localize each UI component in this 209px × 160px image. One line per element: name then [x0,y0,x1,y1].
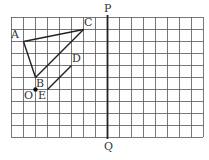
grid-diagram: P Q A B C D E O [0,0,209,160]
grid-svg [0,0,209,160]
label-q: Q [104,141,113,152]
label-a: A [11,29,19,40]
segment-ba [24,42,36,78]
segment-ac [24,30,84,42]
label-p: P [104,3,111,14]
label-e: E [38,90,46,101]
label-c: C [84,17,92,28]
label-o: O [24,90,33,101]
label-d: D [72,53,81,64]
label-b: B [36,78,44,89]
